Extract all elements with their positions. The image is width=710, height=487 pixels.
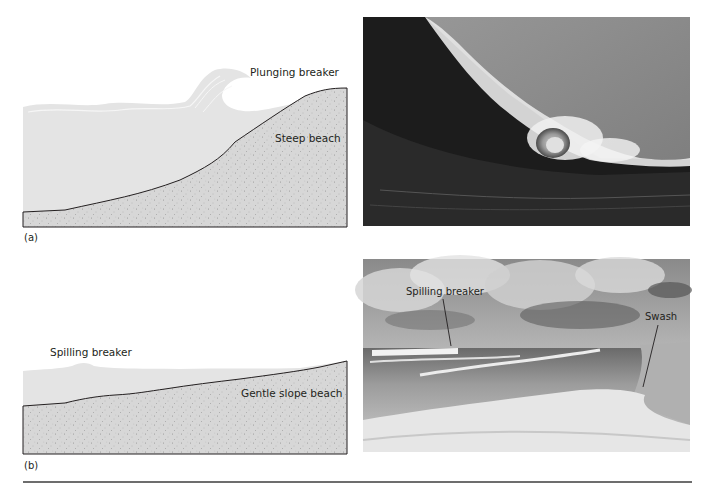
photo-spilling-breaker-label: Spilling breaker bbox=[406, 286, 484, 297]
spilling-breaker-label: Spilling breaker bbox=[50, 346, 132, 358]
diagram-a bbox=[23, 68, 347, 227]
bottom-rule bbox=[23, 481, 692, 483]
plunging-breaker-label: Plunging breaker bbox=[250, 66, 339, 78]
figure-canvas bbox=[0, 0, 710, 487]
photo-swash-label: Swash bbox=[645, 311, 677, 322]
photo-a bbox=[363, 17, 690, 226]
panel-label-b: (b) bbox=[24, 460, 38, 471]
diagram-b bbox=[23, 361, 347, 454]
steep-beach-label: Steep beach bbox=[275, 132, 341, 144]
gentle-slope-beach-label: Gentle slope beach bbox=[241, 387, 342, 399]
panel-label-a: (a) bbox=[24, 232, 38, 243]
photo-b bbox=[355, 255, 692, 452]
